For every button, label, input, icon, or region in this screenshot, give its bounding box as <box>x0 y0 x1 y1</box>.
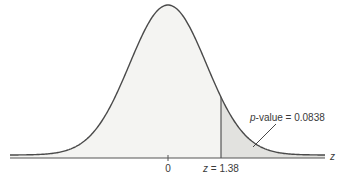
curve-body-fill <box>10 5 325 158</box>
annotation-leader-line <box>253 124 276 147</box>
axis-variable-label: z <box>329 151 335 162</box>
zero-label: 0 <box>165 163 171 174</box>
p-value-label: p-value = 0.0838 <box>249 112 325 123</box>
critical-value-label: z = 1.38 <box>202 163 239 174</box>
normal-curve-chart: 0 z = 1.38 p-value = 0.0838 z <box>0 0 341 178</box>
